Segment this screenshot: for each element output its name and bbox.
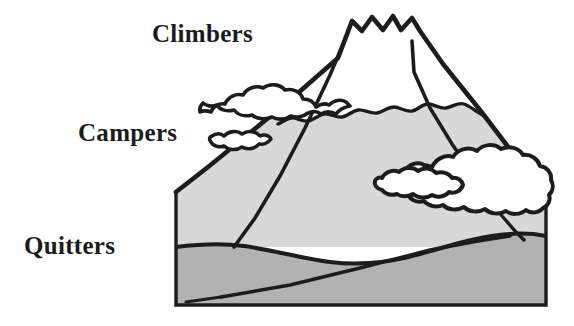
label-climbers: Climbers	[152, 20, 253, 48]
mountain-stages-diagram: Climbers Campers Quitters	[0, 0, 574, 326]
label-quitters: Quitters	[24, 232, 115, 260]
mountain-illustration	[0, 0, 574, 326]
label-campers: Campers	[78, 119, 177, 147]
